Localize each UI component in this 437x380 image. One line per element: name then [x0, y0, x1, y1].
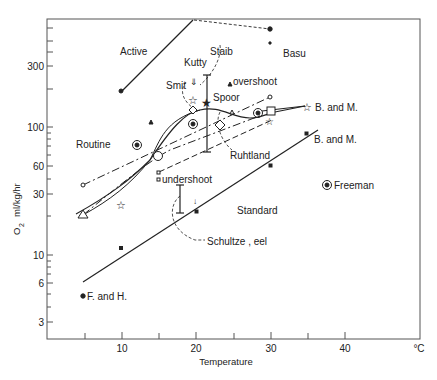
ytick-300: 300 [27, 61, 44, 72]
xtick-30: 30 [265, 343, 277, 354]
label-bm-2: B. and M. [314, 134, 357, 145]
y-axis-label: O 2 ml/kg/hr [11, 183, 25, 235]
overshoot-marker [228, 82, 232, 86]
square-point-10 [120, 247, 123, 250]
label-staib: Staib [210, 46, 233, 57]
label-kutty: Kutty [184, 57, 207, 68]
label-undershoot: undershoot [162, 174, 212, 185]
spoor-star: ★ [201, 96, 212, 110]
schultze-arc [172, 196, 205, 240]
label-active: Active [120, 46, 148, 57]
smit-star: ☆ [188, 94, 198, 106]
square-point-bm [305, 132, 308, 135]
label-spoor: Spoor [213, 92, 240, 103]
y-label-sub: 2 [18, 223, 25, 227]
small-open-circle-2 [268, 95, 272, 99]
label-routine: Routine [76, 139, 111, 150]
open-circle-point [154, 152, 163, 161]
star-10: ☆ [116, 199, 126, 211]
ytick-6: 6 [38, 278, 44, 289]
square-point-30 [269, 164, 272, 167]
label-smit: Smit [166, 80, 186, 91]
triangle-25 [230, 110, 234, 114]
x-axis-label: Temperature [199, 356, 252, 367]
x-unit: °C [413, 343, 424, 354]
undershoot-marker [157, 178, 160, 181]
label-schultze: Schultze , eel [207, 236, 267, 247]
small-triangle-point [149, 120, 153, 124]
ytick-60: 60 [33, 161, 45, 172]
kutty-arrow: ⇓ [190, 77, 198, 87]
y-label-units: ml/kg/hr [11, 183, 22, 217]
bm-star: ☆ [302, 101, 312, 113]
label-fh: F. and H. [87, 291, 127, 302]
label-bm-1: B. and M. [315, 102, 358, 113]
y-axis-ticks [47, 28, 53, 322]
label-overshoot: overshoot [233, 76, 277, 87]
y-axis-tick-labels: 300 100 60 30 10 6 3 [27, 61, 44, 328]
dashdot-line-1 [83, 97, 270, 185]
xtick-10: 10 [116, 343, 128, 354]
label-standard: Standard [237, 205, 278, 216]
small-open-square [157, 171, 160, 174]
label-freeman: Freeman [334, 180, 374, 191]
staib-line [194, 20, 270, 29]
o2-temperature-chart: 300 100 60 30 10 6 3 O 2 ml/kg/hr 10 20 … [0, 0, 437, 380]
x-axis-tick-labels: 10 20 30 40 °C [116, 343, 424, 354]
diamond-20 [189, 106, 197, 114]
label-basu: Basu [283, 48, 306, 59]
annotations: Active Staib Basu Kutty Smit Spoor overs… [76, 46, 374, 302]
ytick-10: 10 [33, 250, 45, 261]
label-ruhtland: Ruhtland [230, 150, 270, 161]
square-point-20 [195, 210, 198, 213]
ytick-3: 3 [38, 317, 44, 328]
ytick-30: 30 [33, 189, 45, 200]
arrow-20: ↓ [193, 197, 197, 206]
ytick-100: 100 [27, 122, 44, 133]
open-square-30 [267, 107, 275, 115]
fh-point [81, 294, 85, 298]
y-label-o: O [11, 228, 22, 235]
small-dot-point [269, 42, 271, 44]
small-open-circle-1 [81, 183, 85, 187]
xtick-40: 40 [339, 343, 351, 354]
diamond-ruhtland [215, 120, 225, 130]
basu-point [268, 27, 272, 31]
dashed-line-3 [159, 120, 272, 172]
star-30: ☆ [265, 116, 274, 127]
x-axis-ticks [85, 332, 345, 339]
xtick-20: 20 [190, 343, 202, 354]
active-start-point [119, 89, 123, 93]
triangle-point [78, 210, 88, 218]
